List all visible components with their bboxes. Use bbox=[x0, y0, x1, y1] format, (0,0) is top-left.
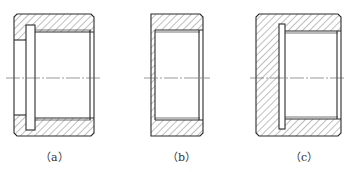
figure-a-drawing bbox=[6, 14, 100, 136]
figure-c-drawing bbox=[250, 14, 346, 136]
section-drawings bbox=[0, 0, 352, 172]
figure-b-label: （b） bbox=[167, 148, 196, 164]
figure-b-drawing bbox=[144, 14, 210, 136]
figure-a-label: （a） bbox=[40, 148, 69, 164]
figure-c-label: （c） bbox=[290, 148, 318, 164]
